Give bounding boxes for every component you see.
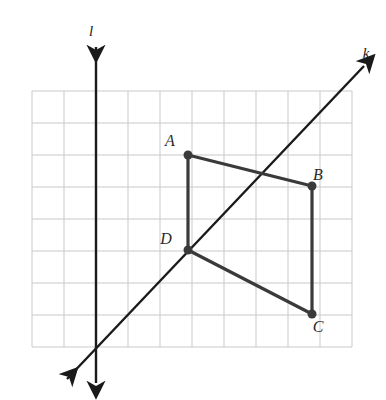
vertex-label-c: C [313, 318, 324, 335]
vertex-label-b: B [313, 166, 323, 183]
vertex-point-a [184, 151, 193, 160]
figure-canvas: ABCDkl [0, 0, 386, 400]
quadrilateral-segments-group [188, 155, 312, 314]
labels-group: ABCDkl [89, 23, 370, 335]
vertex-label-a: A [164, 132, 175, 149]
line-l-label: l [89, 23, 93, 39]
line-k-label: k [363, 45, 370, 61]
segment-AB [188, 155, 312, 186]
segment-DC [188, 250, 312, 314]
geometry-figure: ABCDkl [0, 0, 386, 400]
vertex-label-d: D [159, 230, 172, 247]
vertex-point-d [184, 246, 193, 255]
